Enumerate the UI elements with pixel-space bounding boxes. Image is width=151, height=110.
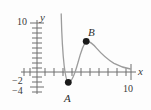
- data-point-b-marker: [83, 38, 90, 45]
- data-point-a-label: A: [64, 93, 71, 104]
- graph-figure: y x 10 −2 −4 10 A B: [0, 0, 151, 110]
- x-axis-label: x: [138, 66, 143, 77]
- y-tick-label-10: 10: [17, 17, 27, 27]
- y-axis-ticks: [30, 23, 44, 92]
- y-tick-label-minus-4: −4: [12, 86, 23, 96]
- data-point-b-label: B: [88, 27, 95, 38]
- data-point-a-marker: [65, 79, 72, 86]
- y-axis-label: y: [40, 12, 45, 23]
- x-tick-label-10: 10: [123, 84, 133, 94]
